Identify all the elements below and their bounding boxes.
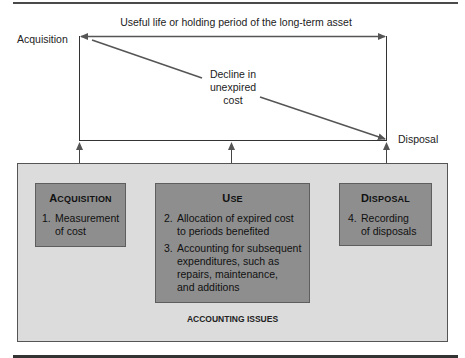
item-line: expenditures, such as [177, 255, 301, 268]
item-line: of disposals [361, 225, 416, 238]
acquisition-box: ACQUISITION 1. Measurement of cost [35, 183, 126, 247]
item-number: 3. [164, 242, 177, 294]
disposal-title-initial: D [361, 192, 369, 204]
disposal-title-rest: ISPOSAL [369, 194, 410, 204]
acquisition-title: ACQUISITION [36, 192, 125, 206]
accounting-issues-label: ACCOUNTING ISSUES [18, 314, 447, 324]
item-number: 1. [42, 212, 55, 238]
item-line: of cost [55, 225, 119, 238]
item-line: Recording [361, 212, 416, 225]
acquisition-title-rest: CQUISITION [57, 194, 112, 204]
item-line: Accounting for subsequent [177, 242, 301, 255]
issue-item-3: 3. Accounting for subsequent expenditure… [156, 242, 309, 294]
disposal-box: DISPOSAL 4. Recording of disposals [339, 183, 432, 246]
item-line: and additions [177, 281, 301, 294]
decline-line-3: cost [200, 94, 266, 107]
item-line: Measurement [55, 212, 119, 225]
issue-item-1: 1. Measurement of cost [36, 212, 125, 238]
issue-item-2: 2. Allocation of expired cost to periods… [156, 212, 309, 238]
decline-line-2: unexpired [200, 81, 266, 94]
decline-line-1: Decline in [200, 68, 266, 81]
item-number: 2. [164, 212, 177, 238]
issue-item-4: 4. Recording of disposals [340, 212, 431, 238]
item-line: to periods benefited [177, 225, 294, 238]
decline-label: Decline in unexpired cost [200, 68, 266, 107]
item-number: 4. [348, 212, 361, 238]
use-title-rest: SE [230, 194, 242, 204]
item-line: Allocation of expired cost [177, 212, 294, 225]
disposal-title: DISPOSAL [340, 192, 431, 206]
use-box: USE 2. Allocation of expired cost to per… [155, 183, 310, 303]
use-title: USE [156, 192, 309, 206]
item-line: repairs, maintenance, [177, 268, 301, 281]
